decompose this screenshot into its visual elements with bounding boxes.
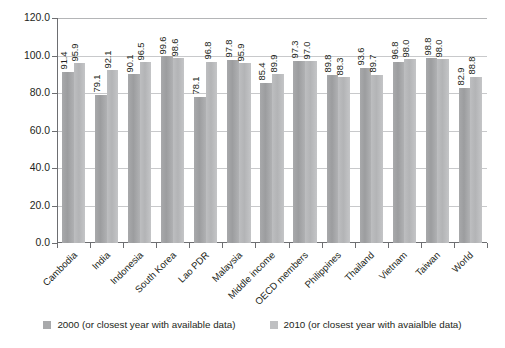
bar[interactable]: 88.3 (338, 77, 350, 243)
legend-swatch (270, 321, 278, 329)
bar-group: 90.196.5 (123, 18, 156, 243)
y-axis-tick-label: 20.0 (4, 200, 50, 210)
x-axis-category-label: World (451, 250, 475, 274)
y-axis-tick-label: 0.0 (4, 238, 50, 248)
bar[interactable]: 92.1 (107, 70, 119, 243)
bar[interactable]: 79.1 (95, 95, 107, 243)
x-axis-tick-mark (156, 243, 157, 248)
x-axis-tick-mark (454, 243, 455, 248)
bar[interactable]: 96.8 (206, 62, 218, 244)
bar[interactable]: 91.4 (62, 72, 74, 243)
bar-value-label: 89.9 (268, 55, 277, 73)
bar[interactable]: 85.4 (260, 83, 272, 243)
bar-value-label: 92.1 (103, 50, 112, 68)
x-axis-tick-mark (421, 243, 422, 248)
bar[interactable]: 95.9 (74, 63, 86, 243)
x-axis-tick-mark (355, 243, 356, 248)
y-axis-tick-label: 80.0 (4, 88, 50, 98)
legend-item[interactable]: 2000 (or closest year with available dat… (43, 320, 235, 330)
bar-value-label: 88.8 (467, 57, 476, 75)
bar[interactable]: 98.6 (173, 58, 185, 243)
bar-value-label: 78.1 (191, 77, 200, 95)
x-axis-tick-mark (322, 243, 323, 248)
x-axis-tick-mark (487, 243, 488, 248)
bar-value-label: 98.0 (401, 39, 410, 57)
bar-group: 85.489.9 (255, 18, 288, 243)
y-axis-tick-label: 60.0 (4, 125, 50, 135)
bar[interactable]: 95.9 (239, 63, 251, 243)
bar-value-label: 88.3 (335, 58, 344, 76)
x-axis-tick-mark (289, 243, 290, 248)
bar[interactable]: 97.0 (305, 61, 317, 243)
bar-group: 96.898.0 (388, 18, 421, 243)
bar-value-label: 91.4 (58, 52, 67, 70)
bar-group: 93.689.7 (355, 18, 388, 243)
x-axis-category-label: Cambodia (41, 250, 79, 288)
legend-label: 2000 (or closest year with available dat… (57, 320, 235, 330)
bar[interactable]: 89.7 (371, 75, 383, 243)
x-axis-tick-mark (57, 243, 58, 248)
bar[interactable]: 89.9 (272, 74, 284, 243)
bar[interactable]: 88.8 (470, 77, 482, 244)
x-axis-tick-mark (90, 243, 91, 248)
x-axis-tick-mark (388, 243, 389, 248)
bar[interactable]: 82.9 (459, 88, 471, 243)
bar-value-label: 85.4 (257, 63, 266, 81)
bar-value-label: 97.8 (224, 40, 233, 58)
bar-group: 97.397.0 (289, 18, 322, 243)
bar[interactable]: 97.8 (227, 60, 239, 243)
bar-group: 91.495.9 (57, 18, 90, 243)
bar-value-label: 82.9 (455, 68, 464, 86)
bar-value-label: 97.3 (290, 41, 299, 59)
bars-layer: 91.495.979.192.190.196.599.698.678.196.8… (57, 18, 487, 243)
bar[interactable]: 78.1 (194, 97, 206, 243)
bar-value-label: 98.0 (434, 39, 443, 57)
bar-value-label: 95.9 (235, 43, 244, 61)
bar[interactable]: 99.6 (161, 56, 173, 243)
bar[interactable]: 97.3 (293, 61, 305, 243)
bar[interactable]: 98.8 (426, 58, 438, 243)
y-axis-tick-label: 120.0 (4, 13, 50, 23)
x-axis-category-label: Taiwan (414, 250, 442, 278)
bar-value-label: 89.7 (368, 55, 377, 73)
bar-value-label: 95.9 (70, 43, 79, 61)
bar-group: 98.898.0 (421, 18, 454, 243)
bar-group: 89.888.3 (322, 18, 355, 243)
x-axis-category-label: Vietnam (378, 250, 410, 282)
bar-value-label: 96.5 (136, 42, 145, 60)
bar-value-label: 99.6 (158, 36, 167, 54)
bar-group: 79.192.1 (90, 18, 123, 243)
bar[interactable]: 89.8 (327, 75, 339, 243)
legend-item[interactable]: 2010 (or closest year with avaialble dat… (270, 320, 462, 330)
x-axis-tick-mark (189, 243, 190, 248)
bar[interactable]: 96.5 (140, 62, 152, 243)
bar[interactable]: 98.0 (404, 59, 416, 243)
bar[interactable]: 93.6 (360, 68, 372, 244)
bar-group: 78.196.8 (189, 18, 222, 243)
bar-value-label: 98.6 (169, 38, 178, 56)
bar[interactable]: 98.0 (437, 59, 449, 243)
bar-value-label: 79.1 (91, 75, 100, 93)
x-axis-tick-mark (222, 243, 223, 248)
x-axis-tick-mark (123, 243, 124, 248)
bar-chart: 0.020.040.060.080.0100.0120.0 91.495.979… (0, 0, 505, 348)
bar-value-label: 97.0 (301, 41, 310, 59)
chart-legend: 2000 (or closest year with available dat… (0, 320, 505, 330)
bar-group: 97.895.9 (222, 18, 255, 243)
bar[interactable]: 96.8 (393, 62, 405, 244)
bar-group: 99.698.6 (156, 18, 189, 243)
x-axis-category-label: India (90, 250, 112, 272)
legend-swatch (43, 321, 51, 329)
bar-value-label: 98.8 (422, 38, 431, 56)
bar-group: 82.988.8 (454, 18, 487, 243)
bar-value-label: 93.6 (356, 48, 365, 66)
x-axis-category-label: Lao PDR (176, 250, 210, 284)
y-axis-tick-label: 40.0 (4, 163, 50, 173)
bar[interactable]: 90.1 (128, 74, 140, 243)
x-axis-tick-mark (255, 243, 256, 248)
y-axis-tick-label: 100.0 (4, 50, 50, 60)
bar-value-label: 90.1 (124, 54, 133, 72)
bar-value-label: 96.8 (389, 42, 398, 60)
bar-value-label: 89.8 (323, 55, 332, 73)
bar-value-label: 96.8 (202, 42, 211, 60)
